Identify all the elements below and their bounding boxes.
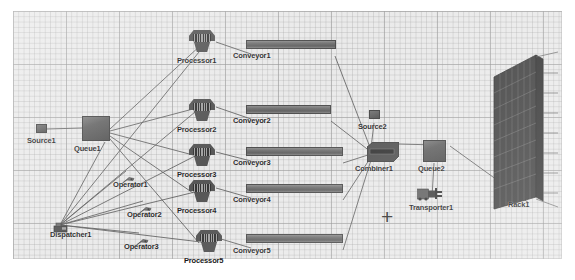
link-queue1-processor5 — [110, 139, 199, 243]
object-operator3[interactable] — [136, 232, 147, 239]
object-label-source2: Source2 — [358, 122, 387, 131]
object-label-processor3: Processor3 — [177, 170, 216, 179]
object-conveyor5[interactable] — [246, 234, 343, 243]
object-label-conveyor3: Conveyor3 — [233, 158, 270, 167]
object-rack1[interactable] — [488, 49, 562, 219]
object-label-processor4: Processor4 — [177, 206, 216, 215]
object-label-operator1: Operator1 — [113, 180, 148, 189]
object-source2[interactable] — [369, 110, 380, 119]
object-label-conveyor2: Conveyor2 — [233, 116, 270, 125]
object-queue1[interactable] — [82, 116, 110, 141]
object-conveyor2[interactable] — [246, 105, 331, 114]
object-label-conveyor1: Conveyor1 — [233, 51, 270, 60]
object-label-source1: Source1 — [27, 136, 56, 145]
object-label-rack1: Rack1 — [508, 200, 529, 209]
object-conveyor1[interactable] — [246, 40, 336, 49]
object-transporter1[interactable] — [417, 187, 443, 201]
object-label-processor2: Processor2 — [177, 125, 216, 134]
object-label-queue2: Queue2 — [418, 164, 445, 173]
model-view-window: Source1 Queue1 Dispatcher1 Operator1 — [0, 0, 575, 280]
processor-detail-icon — [193, 184, 211, 192]
object-operator1[interactable] — [122, 170, 133, 177]
processor-detail-icon — [200, 234, 218, 242]
object-source1[interactable] — [36, 124, 47, 133]
object-label-dispatcher1: Dispatcher1 — [50, 230, 91, 239]
transporter-icon — [417, 187, 443, 201]
object-label-processor5: Processor5 — [184, 256, 223, 265]
object-label-transporter1: Transporter1 — [409, 203, 453, 212]
object-label-queue1: Queue1 — [74, 144, 101, 153]
link-source1-queue1 — [47, 128, 82, 129]
link-conveyor1-combiner1 — [335, 56, 371, 150]
processor-detail-icon — [193, 34, 211, 42]
object-label-conveyor4: Conveyor4 — [233, 195, 270, 204]
model-canvas[interactable]: Source1 Queue1 Dispatcher1 Operator1 — [13, 11, 562, 259]
link-queue1-processor3 — [110, 133, 193, 155]
object-combiner1[interactable] — [367, 142, 399, 162]
object-operator2[interactable] — [139, 200, 150, 207]
processor-detail-icon — [193, 103, 211, 111]
object-label-operator2: Operator2 — [127, 210, 162, 219]
object-queue2[interactable] — [423, 140, 446, 162]
link-dispatcher1-processor2 — [60, 112, 195, 225]
object-label-combiner1: Combiner1 — [355, 164, 393, 173]
origin-crosshair: + — [381, 206, 393, 227]
object-conveyor4[interactable] — [246, 184, 343, 193]
object-label-processor1: Processor1 — [177, 56, 216, 65]
combiner-icon — [367, 142, 399, 162]
object-conveyor3[interactable] — [246, 147, 343, 156]
rack-icon — [488, 49, 562, 219]
object-label-operator3: Operator3 — [124, 242, 159, 251]
link-conveyor5-combiner1 — [343, 160, 371, 250]
link-dispatcher1-queue1 — [60, 142, 105, 225]
object-label-conveyor5: Conveyor5 — [233, 246, 270, 255]
object-dispatcher1[interactable] — [53, 219, 69, 230]
processor-detail-icon — [193, 148, 211, 156]
